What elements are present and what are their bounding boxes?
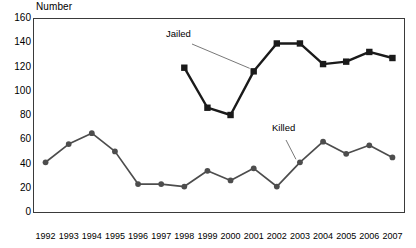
data-point-jailed-2001 xyxy=(250,68,256,74)
data-point-jailed-2000 xyxy=(227,112,233,118)
data-point-killed-1993 xyxy=(66,141,72,147)
plot-area xyxy=(0,0,416,248)
data-point-killed-2001 xyxy=(251,165,257,171)
data-point-jailed-2002 xyxy=(274,40,280,46)
data-point-killed-2005 xyxy=(343,151,349,157)
data-point-killed-1996 xyxy=(135,181,141,187)
series-label-killed: Killed xyxy=(272,122,295,133)
series-label-jailed: Jailed xyxy=(166,28,191,39)
data-point-killed-1994 xyxy=(89,130,95,136)
data-point-killed-2002 xyxy=(274,184,280,190)
data-point-jailed-2003 xyxy=(297,40,303,46)
data-point-jailed-2006 xyxy=(366,49,372,55)
data-point-killed-1995 xyxy=(112,148,118,154)
data-point-jailed-1998 xyxy=(181,65,187,71)
data-point-killed-1998 xyxy=(181,184,187,190)
data-point-killed-2000 xyxy=(228,178,234,184)
data-point-killed-1997 xyxy=(158,181,164,187)
data-point-killed-2003 xyxy=(297,159,303,165)
data-point-killed-2007 xyxy=(390,155,396,161)
data-point-jailed-1999 xyxy=(204,105,210,111)
data-point-killed-1999 xyxy=(205,168,211,174)
data-point-jailed-2004 xyxy=(320,61,326,67)
plot-frame xyxy=(34,19,405,213)
data-point-killed-2006 xyxy=(366,142,372,148)
data-point-killed-1992 xyxy=(43,159,49,165)
data-point-jailed-2007 xyxy=(389,55,395,61)
data-point-killed-2004 xyxy=(320,139,326,145)
data-point-jailed-2005 xyxy=(343,58,349,64)
chart-container: Number 020406080100120140160 19921993199… xyxy=(0,0,416,248)
